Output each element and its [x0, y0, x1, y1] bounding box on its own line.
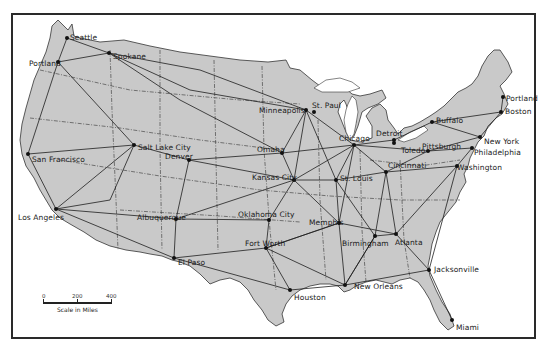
city-label: Denver — [165, 153, 193, 161]
city-marker — [373, 234, 377, 238]
city-label: Fort Worth — [245, 240, 285, 248]
scale-tick-label: 0 — [42, 293, 46, 299]
city-marker — [288, 288, 292, 292]
city-label: Houston — [294, 294, 326, 302]
city-marker — [334, 178, 338, 182]
city-marker — [427, 268, 431, 272]
city-label: Minneapolis — [259, 107, 305, 115]
city-label: Philadelphia — [474, 149, 521, 157]
city-marker — [26, 152, 30, 156]
city-label: St. Paul — [312, 102, 341, 110]
city-label: Washington — [457, 164, 502, 172]
scale-bar: 0 200 400 Scale in Miles — [40, 293, 120, 323]
city-label: Buffalo — [436, 117, 463, 125]
scale-tick-label: 200 — [72, 293, 83, 299]
city-label: Kansas City — [252, 174, 297, 182]
city-label: Portland — [29, 60, 61, 68]
city-label: New Orleans — [354, 283, 403, 291]
scale-title: Scale in Miles — [57, 306, 98, 313]
city-label: El Paso — [178, 259, 205, 267]
city-label: Cincinnati — [388, 162, 426, 170]
city-marker — [501, 95, 505, 99]
scale-tick — [77, 299, 78, 304]
city-marker — [450, 318, 454, 322]
city-label: Seattle — [70, 34, 97, 42]
city-label: Jacksonville — [434, 266, 479, 274]
scale-tick-label: 400 — [106, 293, 117, 299]
city-label: Chicago — [339, 135, 370, 143]
city-marker — [392, 141, 396, 145]
city-marker — [172, 256, 176, 260]
city-label: Atlanta — [395, 239, 423, 247]
city-marker — [107, 51, 111, 55]
city-label: Albuquerque — [137, 214, 186, 222]
city-marker — [352, 143, 356, 147]
city-label: Detroit — [376, 130, 403, 138]
city-marker — [394, 232, 398, 236]
city-marker — [499, 110, 503, 114]
city-marker — [430, 120, 434, 124]
city-label: Salt Lake City — [138, 144, 191, 152]
city-marker — [478, 135, 482, 139]
city-label: Los Angeles — [18, 214, 64, 222]
scale-tick — [43, 299, 44, 304]
city-label: Miami — [456, 324, 479, 332]
lake-superior — [314, 78, 360, 92]
city-marker — [65, 36, 69, 40]
city-label: Oklahoma City — [238, 211, 295, 219]
city-label: Birmingham — [342, 240, 389, 248]
city-label: Boston — [505, 108, 532, 116]
city-label: New York — [484, 138, 519, 146]
city-label: Portland — [506, 95, 538, 103]
city-marker — [132, 143, 136, 147]
city-marker — [312, 110, 316, 114]
scale-tick — [111, 299, 112, 304]
city-label: Pittsburgh — [422, 143, 461, 151]
city-label: St. Louis — [340, 175, 373, 183]
city-label: Omaha — [257, 146, 285, 154]
city-label: San Francisco — [32, 156, 85, 164]
city-label: Spokane — [113, 53, 146, 61]
city-marker — [54, 207, 58, 211]
city-label: Memphis — [309, 219, 344, 227]
city-marker — [384, 170, 388, 174]
city-marker — [343, 283, 347, 287]
